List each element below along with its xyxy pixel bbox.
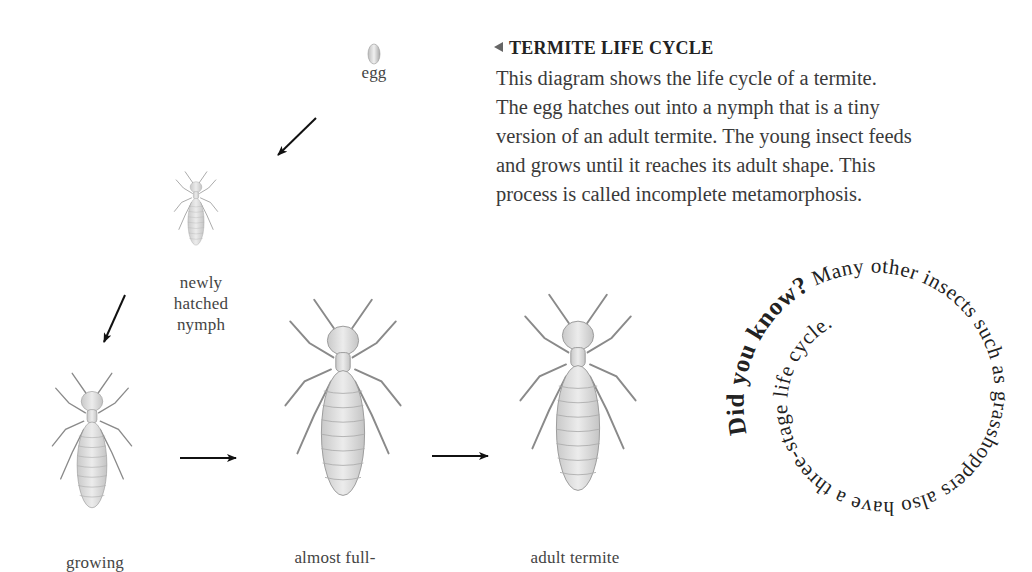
adult-termite-illustration bbox=[520, 295, 635, 491]
almost-full-termite-illustration bbox=[285, 300, 400, 496]
egg-illustration bbox=[368, 44, 380, 64]
arrow-nymph-to-growing bbox=[104, 295, 125, 342]
did-you-know-spiral: Did you know? Many other insects such as… bbox=[722, 253, 1014, 520]
growing-termite-illustration bbox=[52, 373, 131, 507]
diagram-canvas: Did you know? Many other insects such as… bbox=[0, 0, 1032, 572]
svg-text:Did you know? Many other insec: Did you know? Many other insects such as… bbox=[722, 253, 1014, 520]
nymph-illustration bbox=[174, 172, 217, 245]
arrow-egg-to-nymph bbox=[278, 118, 316, 155]
